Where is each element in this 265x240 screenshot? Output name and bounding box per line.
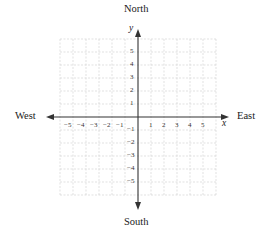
y-tick-label: 3 — [130, 73, 134, 81]
y-tick-label: −1 — [127, 125, 134, 133]
x-tick-label: 3 — [175, 121, 179, 129]
x-tick-label: 5 — [201, 121, 205, 129]
y-tick-label: −5 — [127, 177, 134, 185]
x-tick-label: 1 — [149, 121, 153, 129]
x-tick-label: −2 — [103, 121, 110, 129]
west-label: West — [15, 110, 36, 121]
x-tick-label: −4 — [77, 121, 84, 129]
y-tick-label: −2 — [127, 138, 134, 146]
y-tick-label: 2 — [130, 86, 134, 94]
y-tick-label: 5 — [130, 47, 134, 55]
y-tick-label: 4 — [130, 60, 134, 68]
x-tick-label: −3 — [90, 121, 97, 129]
x-tick-label: 2 — [162, 121, 166, 129]
x-tick-label: −5 — [64, 121, 71, 129]
x-tick-label: −1 — [116, 121, 123, 129]
north-label: North — [124, 3, 149, 14]
y-tick-label: −4 — [127, 164, 134, 172]
y-axis-label: y — [129, 23, 133, 33]
x-tick-label: 4 — [188, 121, 192, 129]
y-tick-label: −3 — [127, 151, 134, 159]
east-label: East — [237, 110, 255, 121]
y-tick-label: 1 — [130, 99, 134, 107]
x-axis-label: x — [222, 118, 226, 128]
axes — [46, 29, 229, 210]
south-label: South — [124, 216, 149, 227]
